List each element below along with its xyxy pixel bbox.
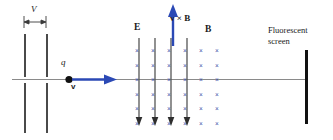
- magnetic-field-label-B: B: [205, 25, 211, 35]
- electric-field-label-E: E: [134, 23, 140, 33]
- vcrossb-force-arrow: [0, 0, 333, 140]
- physics-diagram-canvas: V q v ××××××××××××××××××××××××××××××××××…: [0, 0, 333, 140]
- fluorescent-screen-bar: [305, 50, 308, 124]
- fluorescent-screen-label-line1: Fluorescent: [268, 26, 308, 35]
- vcrossb-label: v × B: [170, 14, 190, 23]
- fluorescent-screen-label-line2: screen: [268, 37, 290, 46]
